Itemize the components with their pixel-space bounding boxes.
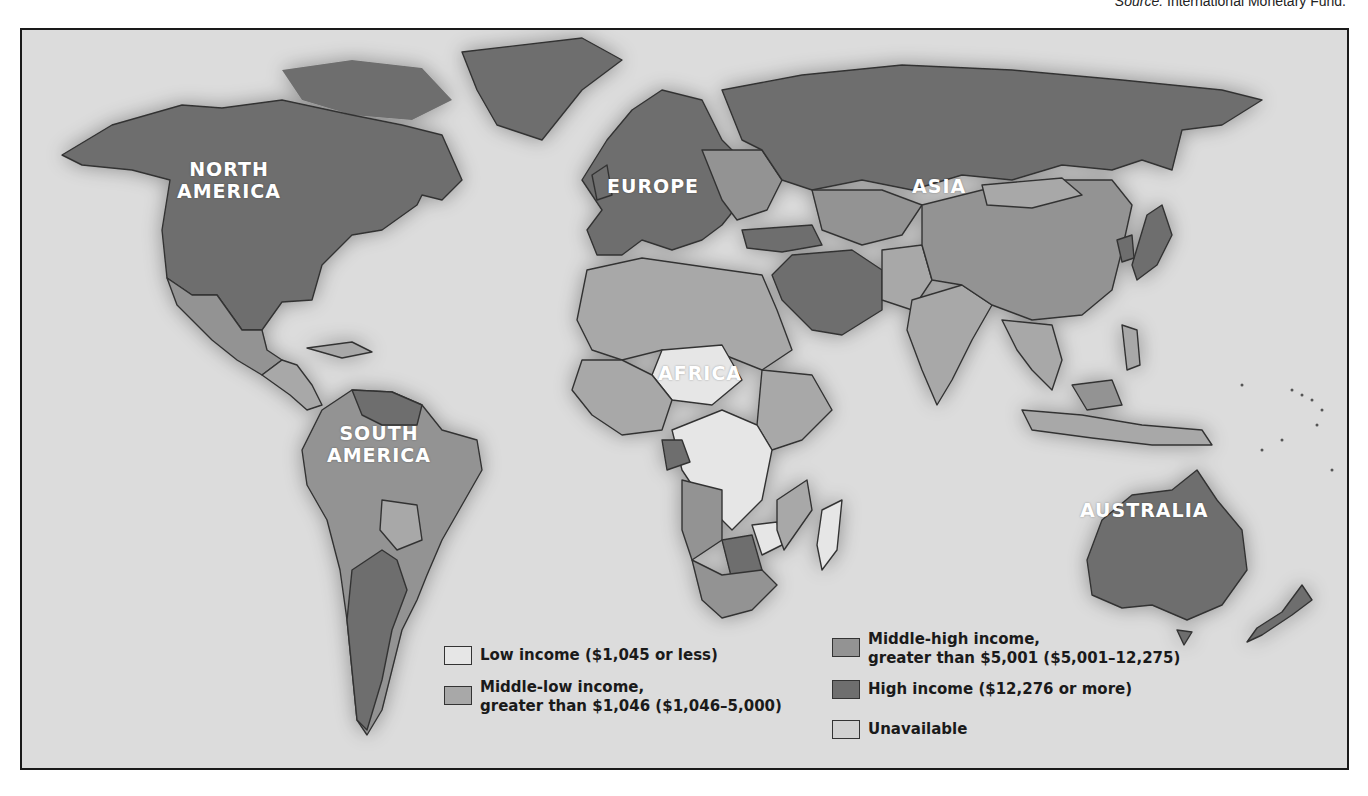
legend-item-middle-low: Middle-low income, greater than $1,046 (… bbox=[444, 678, 782, 716]
map-frame: NORTH AMERICA SOUTH AMERICA EUROPE ASIA … bbox=[20, 28, 1349, 770]
source-prefix: Source: bbox=[1115, 0, 1163, 9]
legend-label-middle-low: Middle-low income, greater than $1,046 (… bbox=[480, 678, 782, 716]
swatch-low bbox=[444, 646, 472, 665]
label-africa: AFRICA bbox=[658, 362, 742, 384]
source-text: International Monetary Fund. bbox=[1167, 0, 1346, 9]
legend-item-high: High income ($12,276 or more) bbox=[832, 680, 1132, 699]
legend-item-low: Low income ($1,045 or less) bbox=[444, 646, 718, 665]
label-australia: AUSTRALIA bbox=[1080, 499, 1208, 521]
legend-item-unavailable: Unavailable bbox=[832, 720, 967, 739]
label-europe: EUROPE bbox=[607, 175, 699, 197]
legend-label-low: Low income ($1,045 or less) bbox=[480, 646, 718, 665]
label-south-america: SOUTH AMERICA bbox=[327, 422, 431, 466]
swatch-middle-high bbox=[832, 638, 860, 657]
label-asia: ASIA bbox=[912, 175, 966, 197]
label-north-america: NORTH AMERICA bbox=[177, 158, 281, 202]
legend-label-middle-high: Middle-high income, greater than $5,001 … bbox=[868, 630, 1180, 668]
legend-label-high: High income ($12,276 or more) bbox=[868, 680, 1132, 699]
legend-label-unavailable: Unavailable bbox=[868, 720, 967, 739]
swatch-middle-low bbox=[444, 686, 472, 705]
swatch-unavailable bbox=[832, 720, 860, 739]
swatch-high bbox=[832, 680, 860, 699]
source-caption: Source: International Monetary Fund. bbox=[1115, 0, 1346, 14]
legend-item-middle-high: Middle-high income, greater than $5,001 … bbox=[832, 630, 1180, 668]
